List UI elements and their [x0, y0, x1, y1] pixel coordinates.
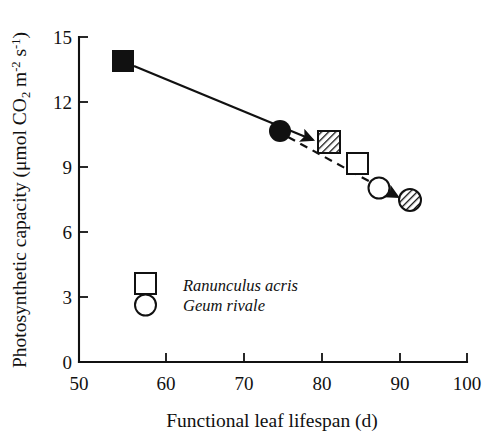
legend-item-geum-rivale: Geum rivale	[135, 295, 265, 316]
figure-container: 15 12 9 6 3 0 50 60 70 80 90 100	[0, 0, 492, 443]
legend: Ranunculus acris Geum rivale	[135, 273, 298, 316]
data-point-hatched-square	[318, 131, 340, 153]
y-axis-title-m: m	[9, 72, 30, 92]
x-tick-label-70: 70	[235, 373, 254, 394]
y-axis-title-close: )	[9, 32, 31, 39]
x-tick-label-90: 90	[391, 373, 410, 394]
y-axis-title-main: Photosynthetic capacity (	[9, 171, 31, 368]
y-tick-label-6: 6	[63, 222, 73, 243]
data-point-open-circle	[369, 178, 390, 199]
y-axis-title-mu: μmol CO	[9, 98, 30, 171]
legend-label-geum-rivale: Geum rivale	[183, 296, 265, 315]
legend-label-ranunculus-acris: Ranunculus acris	[182, 276, 298, 295]
legend-item-ranunculus-acris: Ranunculus acris	[135, 273, 298, 295]
y-tick-label-15: 15	[53, 27, 72, 48]
legend-marker-open-square	[135, 273, 156, 294]
svg-text:Photosynthetic capacity (μmol: Photosynthetic capacity (μmol CO2 m-2 s-…	[9, 32, 33, 368]
legend-marker-open-circle	[135, 295, 156, 316]
y-axis-title: Photosynthetic capacity (μmol CO2 m-2 s-…	[9, 32, 33, 368]
y-axis-title-m-sup: -2	[9, 61, 23, 71]
x-tick-label-60: 60	[157, 373, 176, 394]
y-axis-title-s: s	[9, 49, 30, 61]
data-point-filled-square	[112, 50, 134, 72]
y-axis-title-s-sup: -1	[9, 39, 23, 49]
x-axis-ticks	[79, 353, 467, 362]
y-tick-label-0: 0	[63, 352, 73, 373]
x-axis-title: Functional leaf lifespan (d)	[166, 410, 378, 432]
x-tick-label-100: 100	[453, 373, 482, 394]
x-tick-label-80: 80	[313, 373, 332, 394]
data-point-hatched-circle	[399, 189, 421, 211]
data-point-open-square	[347, 153, 368, 174]
y-tick-label-3: 3	[63, 287, 73, 308]
y-axis-ticks	[79, 37, 88, 362]
data-point-filled-circle	[269, 120, 291, 142]
y-tick-label-12: 12	[53, 92, 72, 113]
x-axis: 50 60 70 80 90 100	[70, 353, 482, 394]
y-tick-label-9: 9	[63, 157, 73, 178]
x-tick-label-50: 50	[70, 373, 89, 394]
y-axis: 15 12 9 6 3 0	[53, 27, 88, 373]
chart-canvas: 15 12 9 6 3 0 50 60 70 80 90 100	[0, 0, 492, 443]
